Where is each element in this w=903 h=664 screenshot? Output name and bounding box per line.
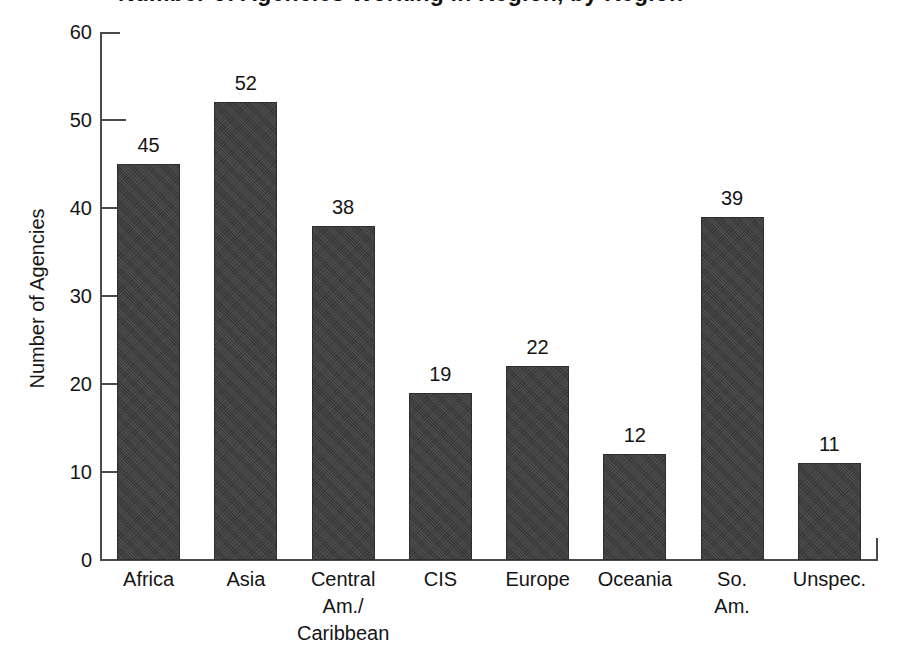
x-axis-category-labels: AfricaAsiaCentralAm./CaribbeanCISEuropeO…	[100, 566, 878, 664]
chart-title: Number of Agencies Working in Region, by…	[118, 0, 683, 7]
bar-value-label: 39	[701, 188, 764, 208]
bar-slot: 52	[214, 32, 277, 560]
y-axis-tick-label: 10	[8, 462, 92, 482]
bar[interactable]	[798, 463, 861, 560]
bar-slot: 22	[506, 32, 569, 560]
bar[interactable]	[312, 226, 375, 560]
x-axis-category-label: Unspec.	[769, 566, 890, 593]
bar-value-label: 38	[312, 197, 375, 217]
category-label-line: Am./	[283, 593, 404, 620]
y-axis-tick-label: 0	[8, 550, 92, 570]
y-axis-tick-label: 20	[8, 374, 92, 394]
bars-container: 4552381922123911	[100, 32, 878, 560]
bar-value-label: 22	[506, 337, 569, 357]
bar-value-label: 45	[117, 135, 180, 155]
y-axis-tick-label: 40	[8, 198, 92, 218]
category-label-line: Caribbean	[283, 620, 404, 647]
bar-value-label: 19	[409, 364, 472, 384]
category-label-line: Unspec.	[769, 566, 890, 593]
y-axis-tick-label: 60	[8, 22, 92, 42]
bar[interactable]	[117, 164, 180, 560]
bar-slot: 38	[312, 32, 375, 560]
bar-slot: 12	[603, 32, 666, 560]
bar-value-label: 11	[798, 434, 861, 454]
bar-slot: 11	[798, 32, 861, 560]
bar-slot: 39	[701, 32, 764, 560]
bar-value-label: 12	[603, 425, 666, 445]
bar-chart: Number of Agencies Working in Region, by…	[0, 0, 903, 664]
y-axis-tick-label: 50	[8, 110, 92, 130]
bar[interactable]	[701, 217, 764, 560]
bar[interactable]	[214, 102, 277, 560]
category-label-line: Am.	[672, 593, 793, 620]
bar[interactable]	[409, 393, 472, 560]
bar-slot: 19	[409, 32, 472, 560]
bar[interactable]	[506, 366, 569, 560]
chart-title-cutoff: Number of Agencies Working in Region, by…	[0, 0, 903, 10]
y-axis-tick-label: 30	[8, 286, 92, 306]
bar-slot: 45	[117, 32, 180, 560]
bar-value-label: 52	[214, 73, 277, 93]
bar[interactable]	[603, 454, 666, 560]
